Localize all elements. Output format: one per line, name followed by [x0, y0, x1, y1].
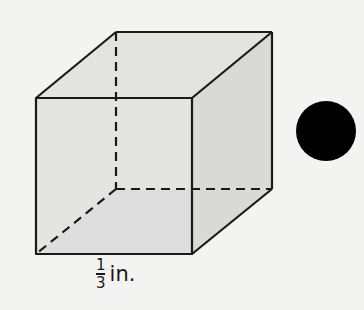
filled-circle-marker — [296, 101, 356, 161]
edge-length-label: 1 3 in. — [96, 258, 135, 290]
cube-front-face — [36, 98, 192, 254]
fraction: 1 3 — [96, 258, 106, 290]
fraction-denominator: 3 — [96, 276, 106, 290]
unit-label: in. — [110, 262, 136, 286]
cube-diagram — [0, 0, 364, 310]
fraction-numerator: 1 — [96, 258, 106, 272]
